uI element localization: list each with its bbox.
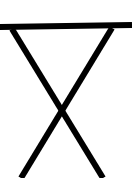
table-leg-left-to-right: [12, 29, 103, 178]
folding-table-icon: [0, 0, 134, 178]
table-leg-right-to-left: [21, 28, 112, 178]
table-top-bar: [0, 25, 132, 27]
folding-table-drawing: [0, 0, 134, 178]
